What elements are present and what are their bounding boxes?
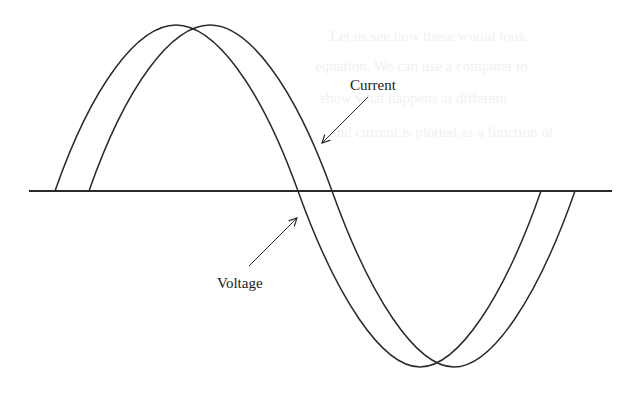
voltage-arrow bbox=[249, 218, 297, 266]
waveform-figure: Let us see how these would look equation… bbox=[0, 0, 628, 393]
voltage-curve bbox=[55, 25, 541, 367]
current-label: Current bbox=[350, 77, 397, 93]
voltage-label: Voltage bbox=[217, 275, 263, 291]
current-curve bbox=[89, 25, 575, 367]
current-arrow bbox=[322, 97, 368, 143]
